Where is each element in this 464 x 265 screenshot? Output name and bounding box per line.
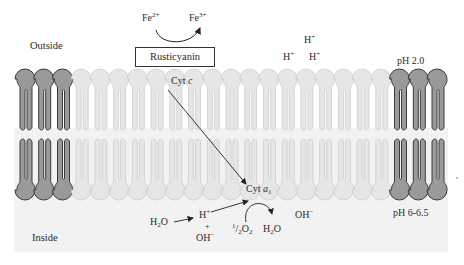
- dark-lipid: [427, 69, 447, 130]
- water-reactant-label: H2O: [150, 216, 168, 227]
- iron-oxidation-arrow: [156, 28, 200, 42]
- dark-lipid: [34, 69, 54, 130]
- rusticyanin-box: Rusticyanin: [135, 47, 215, 67]
- outside-label: Outside: [30, 40, 63, 51]
- light-lipid: [277, 69, 297, 130]
- cytochrome-c-label: Cyt c: [171, 75, 192, 86]
- light-lipid: [333, 69, 353, 130]
- cytochrome-a1-label: Cyt a1: [246, 183, 271, 194]
- light-lipid: [127, 69, 147, 130]
- inside-label: Inside: [32, 232, 58, 243]
- light-lipid: [146, 69, 166, 130]
- light-lipid: [259, 69, 279, 130]
- dark-lipid: [53, 69, 73, 130]
- dark-lipid: [408, 69, 428, 130]
- light-lipid: [109, 69, 129, 130]
- ferrous-iron-label: Fe2+: [142, 12, 159, 23]
- plus-sign: +: [205, 221, 210, 232]
- proton-label: H+: [283, 51, 294, 62]
- inside-ph-label: pH 6-6.5: [393, 207, 429, 218]
- water-product-label: H2O: [263, 223, 281, 234]
- proton-label: H+: [309, 51, 320, 62]
- light-lipid: [71, 69, 91, 130]
- dark-lipid: [15, 69, 35, 130]
- light-lipid: [371, 69, 391, 130]
- membrane-diagram: Outside Inside pH 2.0 pH 6-6.5 Fe2+ Fe3+…: [0, 0, 464, 265]
- light-lipid: [240, 69, 260, 130]
- oxygen-label: 1/2O2: [232, 223, 253, 234]
- hydroxide-label: OH−: [196, 232, 214, 243]
- free-hydroxide-label: OH−: [295, 209, 313, 220]
- light-lipid: [90, 69, 110, 130]
- light-lipid: [352, 69, 372, 130]
- light-lipid: [315, 69, 335, 130]
- proton-label: H+: [304, 34, 315, 45]
- light-lipid: [202, 69, 222, 130]
- light-lipid: [296, 69, 316, 130]
- inside-proton-label: H+: [199, 209, 210, 220]
- dark-lipid: [390, 69, 410, 130]
- light-lipid: [221, 69, 241, 130]
- outside-ph-label: pH 2.0: [397, 55, 424, 66]
- ferric-iron-label: Fe3+: [189, 12, 206, 23]
